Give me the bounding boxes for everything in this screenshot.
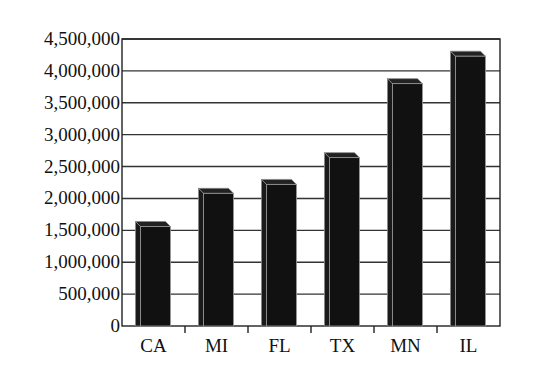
bar-tx xyxy=(325,153,360,326)
plot-area xyxy=(0,0,533,370)
y-tick-label: 3,000,000 xyxy=(44,125,120,144)
y-tick-label: 2,500,000 xyxy=(44,157,120,176)
y-tick-label: 0 xyxy=(111,316,121,335)
bar-mi xyxy=(199,188,234,326)
plot-frame xyxy=(122,39,500,326)
y-tick-label: 2,000,000 xyxy=(44,188,120,207)
bar-il xyxy=(451,51,486,326)
x-tick-label: TX xyxy=(311,336,374,355)
y-tick-label: 4,000,000 xyxy=(44,61,120,80)
x-tick-label: MN xyxy=(374,336,437,355)
y-tick-label: 1,500,000 xyxy=(44,220,120,239)
x-tick-label: CA xyxy=(122,336,185,355)
y-tick-label: 3,500,000 xyxy=(44,93,120,112)
x-tick-label: IL xyxy=(437,336,500,355)
bar-chart: 0500,0001,000,0001,500,0002,000,0002,500… xyxy=(0,0,533,370)
bar-ca xyxy=(136,222,171,326)
y-tick-label: 4,500,000 xyxy=(44,29,120,48)
bar-fl xyxy=(262,179,297,326)
y-tick-label: 1,000,000 xyxy=(44,252,120,271)
x-tick-label: MI xyxy=(185,336,248,355)
y-tick-label: 500,000 xyxy=(58,284,120,303)
x-tick-label: FL xyxy=(248,336,311,355)
bar-mn xyxy=(388,79,423,326)
